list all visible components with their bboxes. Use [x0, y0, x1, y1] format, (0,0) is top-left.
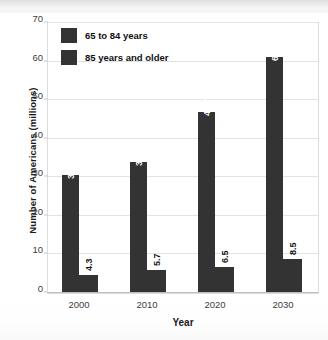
x-axis-tick-label: 2010	[136, 299, 157, 310]
bar-65-to-84: 60.9	[266, 57, 283, 292]
bar-group: 60.98.5	[252, 22, 320, 292]
x-axis-line	[48, 292, 318, 293]
legend-label-85-and-older: 85 years and older	[85, 52, 168, 63]
legend-item-85-and-older: 85 years and older	[61, 50, 168, 65]
bar-value-label: 4.3	[84, 259, 94, 272]
bar-65-to-84: 30.4	[62, 175, 79, 292]
bar-85-and-older: 4.3	[79, 275, 98, 292]
bar-value-label: 8.5	[288, 243, 298, 256]
bar-65-to-84: 46.7	[198, 112, 215, 292]
legend-swatch-icon-85-and-older	[61, 50, 77, 65]
x-axis-title: Year	[47, 317, 319, 328]
legend-label-65-to-84: 65 to 84 years	[85, 30, 148, 41]
bar-value-label: 6.5	[220, 250, 230, 263]
x-axis-tick-label: 2020	[204, 299, 225, 310]
x-axis-tick-label: 2000	[68, 299, 89, 310]
legend-item-65-to-84: 65 to 84 years	[61, 28, 168, 43]
bar-group: 46.76.5	[184, 22, 252, 292]
bar-value-label: 46.7	[202, 98, 212, 116]
bar-chart-figure: Number of Americans (millions) 010203040…	[0, 0, 328, 340]
bar-65-to-84: 33.7	[130, 162, 147, 292]
plot-area: 010203040506070 30.44.333.75.746.76.560.…	[47, 22, 319, 294]
bar-85-and-older: 6.5	[215, 267, 234, 292]
legend-swatch-icon-65-to-84	[61, 28, 77, 43]
bar-value-label: 33.7	[134, 148, 144, 166]
bar-value-label: 30.4	[66, 161, 76, 179]
bar-value-label: 60.9	[270, 44, 280, 62]
x-axis-tick-label: 2030	[272, 299, 293, 310]
scan-artifact-band	[0, 10, 328, 13]
bar-85-and-older: 5.7	[147, 270, 166, 292]
bar-value-label: 5.7	[152, 254, 162, 267]
legend: 65 to 84 years 85 years and older	[61, 28, 168, 72]
bar-85-and-older: 8.5	[283, 259, 302, 292]
